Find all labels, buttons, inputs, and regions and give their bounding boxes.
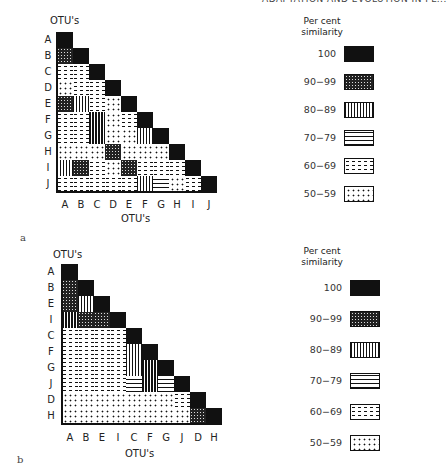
matrix-cell xyxy=(62,280,78,296)
legend-item: 80−89 xyxy=(290,102,374,118)
matrix-cell xyxy=(169,144,185,160)
legend-swatch xyxy=(344,186,374,202)
matrix-cell xyxy=(126,328,142,344)
row-label: E xyxy=(42,98,54,109)
matrix-cell xyxy=(185,176,201,192)
row-label: H xyxy=(42,146,54,157)
matrix-cell xyxy=(57,80,73,96)
matrix-cell xyxy=(57,176,73,192)
row-label: F xyxy=(42,114,54,125)
matrix-cell xyxy=(142,376,158,392)
column-label: A xyxy=(62,432,78,443)
matrix-cell xyxy=(121,128,137,144)
x-axis-title: OTU's xyxy=(121,213,150,224)
matrix-cell xyxy=(110,376,126,392)
matrix-cell xyxy=(153,176,169,192)
matrix-cell xyxy=(62,264,78,280)
matrix-cell xyxy=(89,128,105,144)
matrix-cell xyxy=(89,176,105,192)
column-label: B xyxy=(73,199,89,210)
legend-label: 60−69 xyxy=(310,406,342,417)
row-label: I xyxy=(42,162,54,173)
legend-title-line1: Per cent xyxy=(287,16,357,27)
matrix-cell xyxy=(190,408,206,424)
column-label: D xyxy=(190,432,206,443)
matrix-cell xyxy=(137,144,153,160)
legend-title: Per cent similarity xyxy=(287,16,357,38)
column-label: C xyxy=(89,199,105,210)
legend-swatch xyxy=(344,74,374,90)
matrix-cell xyxy=(57,96,73,112)
legend-item: 90−99 xyxy=(290,74,374,90)
legend-label: 70−79 xyxy=(310,375,342,386)
matrix-cell xyxy=(89,96,105,112)
column-label: I xyxy=(110,432,126,443)
matrix-cell xyxy=(110,328,126,344)
matrix-cell xyxy=(142,392,158,408)
matrix-cell xyxy=(57,32,73,48)
column-label: E xyxy=(121,199,137,210)
matrix-cell xyxy=(62,328,78,344)
legend-item: 80−89 xyxy=(290,342,380,358)
matrix-cell xyxy=(142,360,158,376)
legend-label: 50−59 xyxy=(310,437,342,448)
matrix-cell xyxy=(89,144,105,160)
matrix-cell xyxy=(94,312,110,328)
matrix-cell xyxy=(94,344,110,360)
matrix-cell xyxy=(110,344,126,360)
matrix-cell xyxy=(174,392,190,408)
column-label: A xyxy=(57,199,73,210)
matrix-cell xyxy=(62,408,78,424)
matrix-cell xyxy=(190,392,206,408)
matrix-cell xyxy=(110,392,126,408)
legend-swatch xyxy=(350,373,380,389)
matrix-cell xyxy=(105,128,121,144)
matrix-cell xyxy=(78,376,94,392)
matrix-cell xyxy=(94,328,110,344)
matrix-cell xyxy=(105,96,121,112)
column-label: H xyxy=(169,199,185,210)
matrix-cell xyxy=(169,160,185,176)
matrix-cell xyxy=(169,176,185,192)
matrix-cell xyxy=(94,376,110,392)
legend-item: 50−59 xyxy=(290,435,380,451)
matrix-cell xyxy=(94,360,110,376)
legend-swatch xyxy=(344,102,374,118)
row-label: B xyxy=(45,282,57,293)
legend-title-line2: similarity xyxy=(287,257,357,268)
row-label: G xyxy=(45,362,57,373)
legend-swatch xyxy=(344,130,374,146)
matrix-cell xyxy=(153,128,169,144)
column-label: F xyxy=(137,199,153,210)
matrix-cell xyxy=(121,144,137,160)
matrix-cell xyxy=(57,144,73,160)
matrix-cell xyxy=(73,96,89,112)
matrix-cell xyxy=(126,360,142,376)
y-axis-title: OTU's xyxy=(50,15,79,26)
legend-swatch xyxy=(350,404,380,420)
legend-label: 70−79 xyxy=(304,132,336,143)
matrix-cell xyxy=(62,376,78,392)
matrix-cell xyxy=(126,392,142,408)
column-label: J xyxy=(174,432,190,443)
panel-b: OTU's ABEICFGJDH ABEICFGJDH OTU's b Per … xyxy=(0,236,391,472)
matrix-cell xyxy=(62,344,78,360)
legend-label: 100 xyxy=(324,282,342,293)
row-label: J xyxy=(45,378,57,389)
matrix-cell xyxy=(57,128,73,144)
legend-item: 100 xyxy=(290,280,380,296)
matrix-cell xyxy=(57,160,73,176)
matrix-cell xyxy=(73,64,89,80)
column-label: I xyxy=(185,199,201,210)
row-label: I xyxy=(45,314,57,325)
x-axis-title: OTU's xyxy=(125,448,154,459)
matrix-cell xyxy=(105,160,121,176)
matrix-cell xyxy=(62,360,78,376)
matrix-cell xyxy=(121,112,137,128)
matrix-cell xyxy=(105,112,121,128)
row-label: D xyxy=(45,394,57,405)
matrix-cell xyxy=(78,408,94,424)
matrix-cell xyxy=(121,160,137,176)
matrix-cell xyxy=(73,48,89,64)
legend-swatch xyxy=(350,342,380,358)
